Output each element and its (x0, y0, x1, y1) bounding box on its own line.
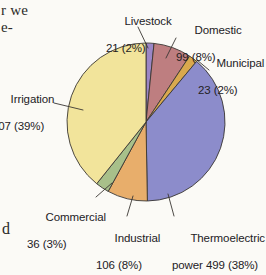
slice-label-livestock-value: 21 (2%) (106, 42, 172, 55)
slice-label-commercial-value: 36 (3%) (27, 238, 106, 251)
slice-label-irrigation: Irrigation 507 (39%) (0, 80, 54, 159)
slice-label-domestic-name: Domestic (195, 24, 242, 36)
slice-label-commercial-name: Commercial (46, 211, 106, 223)
slice-label-thermoelectric-value: power 499 (38%) (172, 259, 265, 272)
slice-label-livestock-name: Livestock (125, 15, 172, 27)
slice-label-commercial: Commercial 36 (3%) (27, 198, 106, 275)
slice-label-thermoelectric-name: Thermoelectric (190, 232, 265, 244)
slice-label-industrial-name: Industrial (115, 232, 161, 244)
slice-label-municipal-value: 23 (2%) (198, 84, 264, 97)
slice-label-municipal: Municipal 23 (2%) (198, 44, 264, 123)
slice-label-municipal-name: Municipal (217, 57, 265, 69)
slice-label-irrigation-name: Irrigation (11, 93, 55, 105)
slice-label-livestock: Livestock 21 (2%) (106, 2, 172, 81)
slice-label-irrigation-value: 507 (39%) (0, 120, 54, 133)
slice-label-thermoelectric: Thermoelectric power 499 (38%) (172, 219, 265, 275)
